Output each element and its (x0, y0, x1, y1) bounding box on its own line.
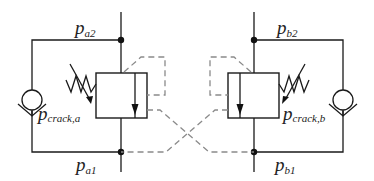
junction-pb2 (251, 37, 257, 43)
junction-pa2 (118, 37, 124, 43)
label-pb1: pb1 (273, 154, 296, 176)
adjustable-spring-b-icon (279, 64, 309, 104)
label-pb2: pb2 (275, 17, 298, 39)
valve-a-body (96, 73, 147, 118)
hydraulic-circuit-diagram: pa2 pcrack,a pa1 (0, 0, 374, 181)
label-pcrack-a: pcrack,a (36, 103, 81, 124)
label-pa1: pa1 (74, 154, 97, 176)
check-valve-b-icon (329, 90, 357, 116)
valve-b-body (228, 73, 279, 118)
adjustable-spring-a-icon (66, 64, 96, 104)
label-pcrack-b: pcrack,b (281, 103, 326, 124)
label-pa2: pa2 (73, 17, 96, 39)
